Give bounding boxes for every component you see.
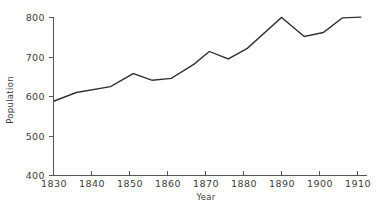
x-tick-label-1860: 1860 — [155, 178, 181, 189]
y-tick-label-700: 700 — [26, 52, 45, 63]
x-axis-title: Year — [195, 192, 215, 202]
chart-plot-area: 800 700 600 500 400 1830 1840 1850 1860 … — [0, 0, 389, 213]
y-tick-marks — [49, 18, 54, 176]
x-tick-label-1910: 1910 — [345, 178, 371, 189]
x-tick-label-1840: 1840 — [79, 178, 105, 189]
y-tick-label-800: 800 — [26, 12, 45, 23]
y-tick-label-600: 600 — [26, 91, 45, 102]
data-series-population — [54, 17, 362, 101]
y-tick-labels: 800 700 600 500 400 — [26, 12, 45, 181]
x-tick-label-1850: 1850 — [117, 178, 143, 189]
y-tick-label-500: 500 — [26, 131, 45, 142]
y-axis-title: Population — [5, 76, 15, 124]
x-tick-labels: 1830 1840 1850 1860 1870 1880 1890 1900 … — [41, 178, 371, 189]
x-tick-label-1870: 1870 — [193, 178, 219, 189]
x-tick-label-1830: 1830 — [41, 178, 67, 189]
x-tick-label-1880: 1880 — [231, 178, 257, 189]
x-tick-marks — [54, 171, 358, 176]
x-tick-label-1890: 1890 — [269, 178, 295, 189]
line-chart: 800 700 600 500 400 1830 1840 1850 1860 … — [0, 0, 389, 213]
x-tick-label-1900: 1900 — [307, 178, 333, 189]
